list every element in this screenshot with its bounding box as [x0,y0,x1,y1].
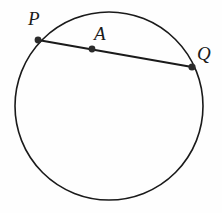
geometry-canvas [0,0,222,213]
point-a-dot [89,46,96,53]
point-label-q: Q [197,44,211,63]
geometry-figure: P A Q [0,0,222,213]
chord-pq [38,40,192,67]
point-q-dot [188,63,195,70]
point-p-dot [35,37,42,44]
point-label-a: A [94,24,106,43]
point-label-p: P [28,9,40,28]
